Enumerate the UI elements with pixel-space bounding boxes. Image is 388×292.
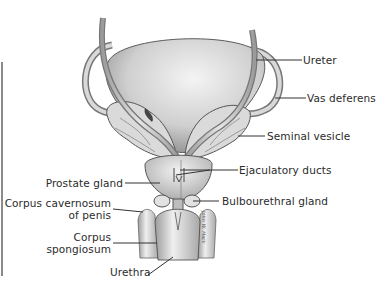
label-corpus-spongiosum: Corpus spongiosum [46, 231, 111, 255]
label-seminal-vesicle: Seminal vesicle [267, 130, 350, 142]
label-corpus-cavernosum-line1: Corpus cavernosum [5, 197, 111, 209]
label-urethra: Urethra [110, 266, 150, 278]
artist-signature: John W. Hack [201, 211, 207, 244]
label-ejaculatory-ducts: Ejaculatory ducts [239, 164, 332, 176]
label-ureter: Ureter [303, 54, 337, 66]
label-corpus-spongiosum-line2: spongiosum [46, 243, 111, 255]
prostate-shape [145, 155, 212, 200]
label-corpus-cavernosum-line2: of penis [5, 209, 111, 221]
label-corpus-cavernosum: Corpus cavernosum of penis [5, 197, 111, 221]
label-corpus-spongiosum-line1: Corpus [46, 231, 111, 243]
label-vas-deferens: Vas deferens [307, 92, 376, 104]
label-bulbourethral-gland: Bulbourethral gland [222, 195, 328, 207]
label-prostate-gland: Prostate gland [46, 177, 123, 189]
